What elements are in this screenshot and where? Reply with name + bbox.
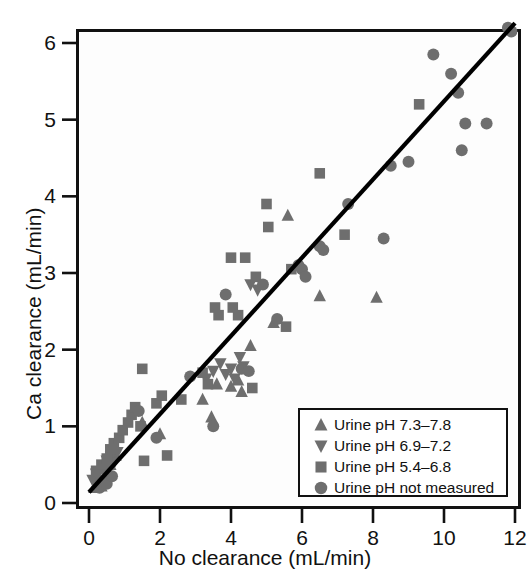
triangle-up-icon-glyph	[315, 418, 328, 431]
data-point	[137, 364, 148, 375]
data-point	[156, 390, 167, 401]
circle-icon	[310, 480, 332, 496]
data-point	[133, 405, 145, 417]
data-point	[247, 383, 258, 394]
data-point	[207, 420, 219, 432]
data-point	[281, 321, 292, 332]
circle-icon-glyph	[315, 482, 327, 494]
legend-item: Urine pH 5.4–6.8	[310, 457, 506, 477]
legend-label: Urine pH 6.9–7.2	[334, 437, 451, 455]
square-icon	[310, 459, 332, 475]
data-point	[445, 68, 457, 80]
legend-label: Urine pH 5.4–6.8	[334, 458, 451, 476]
y-axis-title: Ca clearance (mL/min)	[22, 208, 46, 420]
data-point	[203, 379, 214, 390]
data-point	[403, 156, 415, 168]
legend-label: Urine pH 7.3–7.8	[334, 416, 451, 434]
triangle-down-icon-glyph	[315, 440, 328, 453]
data-point	[233, 310, 244, 321]
data-point	[414, 99, 425, 110]
triangle-down-icon	[310, 438, 332, 454]
data-point	[481, 118, 493, 130]
data-point	[240, 252, 251, 263]
data-point	[162, 450, 173, 461]
data-point	[139, 456, 150, 467]
data-point	[339, 229, 350, 240]
triangle-up-icon	[310, 417, 332, 433]
x-axis-title: No clearance (mL/min)	[0, 546, 530, 570]
legend-item: Urine pH not measured	[310, 478, 506, 498]
legend-item: Urine pH 7.3–7.8	[310, 415, 506, 435]
legend-box: Urine pH 7.3–7.8Urine pH 6.9–7.2Urine pH…	[298, 408, 508, 497]
data-point	[378, 233, 390, 245]
data-point	[314, 168, 325, 179]
data-point	[456, 144, 468, 156]
data-point	[226, 252, 237, 263]
y-tick-label: 6	[34, 31, 56, 55]
y-tick-label: 5	[34, 108, 56, 132]
scatter-plot-figure: 0123456 024681012 Ca clearance (mL/min) …	[0, 0, 530, 581]
data-point	[427, 49, 439, 61]
square-icon-glyph	[315, 461, 326, 472]
data-point	[220, 288, 232, 300]
data-point	[213, 310, 224, 321]
y-tick-label: 0	[34, 491, 56, 515]
data-point	[101, 453, 112, 464]
data-point	[300, 271, 312, 283]
data-point	[317, 244, 329, 256]
data-point	[459, 118, 471, 130]
legend-label: Urine pH not measured	[334, 479, 494, 497]
y-tick-label: 4	[34, 184, 56, 208]
legend-item: Urine pH 6.9–7.2	[310, 436, 506, 456]
data-point	[150, 432, 162, 444]
data-point	[263, 222, 274, 233]
data-point	[243, 365, 255, 377]
data-point	[257, 279, 269, 291]
data-point	[271, 313, 283, 325]
data-point	[261, 199, 272, 210]
